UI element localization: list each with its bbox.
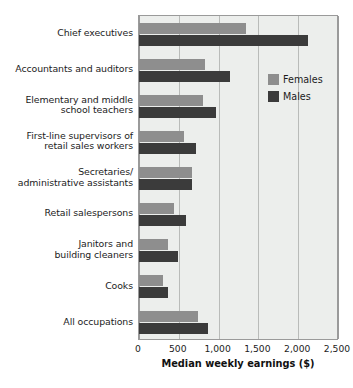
bar-males-7 — [139, 287, 168, 298]
category-label-line: Chief executives — [0, 28, 133, 39]
x-tick-label-0: 0 — [135, 343, 141, 354]
bar-females-8 — [139, 311, 198, 322]
bar-females-0 — [139, 23, 246, 34]
bar-males-2 — [139, 107, 216, 118]
category-label-line: Cooks — [0, 281, 133, 292]
x-axis-title: Median weekly earnings ($) — [138, 358, 338, 369]
x-tick-label-2500: 2,500 — [324, 343, 350, 354]
category-axis-labels: Chief executivesAccountants and auditors… — [0, 15, 133, 340]
bar-females-7 — [139, 275, 163, 286]
category-label-5: Retail salespersons — [0, 208, 133, 219]
gridline-1000 — [219, 16, 220, 339]
bar-females-5 — [139, 203, 174, 214]
legend-swatch-females — [268, 74, 279, 85]
bar-males-6 — [139, 251, 178, 262]
legend-item-females[interactable]: Females — [268, 72, 348, 87]
bar-males-5 — [139, 215, 186, 226]
plot-area — [138, 15, 338, 340]
legend-label: Females — [283, 74, 323, 85]
gridline-2000 — [298, 16, 299, 339]
x-axis-tick-labels: 05001,0001,5002,0002,500 — [0, 343, 353, 356]
gridline-1500 — [258, 16, 259, 339]
bar-females-1 — [139, 59, 205, 70]
category-label-line: All occupations — [0, 317, 133, 328]
category-label-2: Elementary and middleschool teachers — [0, 95, 133, 116]
bar-males-8 — [139, 323, 208, 334]
x-tick-label-2000: 2,000 — [284, 343, 310, 354]
category-label-line: Accountants and auditors — [0, 64, 133, 75]
category-label-line: retail sales workers — [0, 141, 133, 152]
bar-females-6 — [139, 239, 168, 250]
legend-swatch-males — [268, 91, 279, 102]
bar-males-1 — [139, 71, 230, 82]
chart-legend: FemalesMales — [268, 72, 348, 106]
bar-females-4 — [139, 167, 192, 178]
category-label-line: school teachers — [0, 105, 133, 116]
category-label-8: All occupations — [0, 317, 133, 328]
legend-label: Males — [283, 91, 311, 102]
bar-males-4 — [139, 179, 192, 190]
bar-males-3 — [139, 143, 196, 154]
category-label-3: First-line supervisors ofretail sales wo… — [0, 131, 133, 152]
bar-chart: Chief executivesAccountants and auditors… — [0, 0, 353, 388]
category-label-6: Janitors andbuilding cleaners — [0, 239, 133, 260]
x-tick-label-1000: 1,000 — [204, 343, 230, 354]
category-label-4: Secretaries/administrative assistants — [0, 167, 133, 188]
bar-females-3 — [139, 131, 184, 142]
x-tick-label-1500: 1,500 — [244, 343, 270, 354]
bar-males-0 — [139, 35, 308, 46]
x-tick-label-500: 500 — [169, 343, 187, 354]
category-label-1: Accountants and auditors — [0, 64, 133, 75]
category-label-7: Cooks — [0, 281, 133, 292]
bar-females-2 — [139, 95, 203, 106]
category-label-line: Retail salespersons — [0, 208, 133, 219]
legend-item-males[interactable]: Males — [268, 89, 348, 104]
category-label-line: building cleaners — [0, 250, 133, 261]
category-label-line: administrative assistants — [0, 178, 133, 189]
gridline-2500 — [338, 16, 339, 339]
category-label-0: Chief executives — [0, 28, 133, 39]
category-label-line: Secretaries/ — [0, 167, 133, 178]
